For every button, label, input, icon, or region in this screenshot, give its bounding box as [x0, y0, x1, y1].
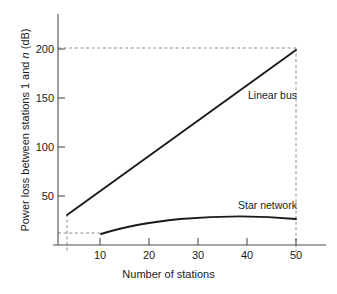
- series-linear-bus: [67, 50, 296, 215]
- y-axis-title: Power loss between stations 1 and n (dB): [19, 10, 31, 250]
- x-tick-label-30: 30: [184, 250, 212, 261]
- y-axis-title-after: (dB): [19, 29, 31, 53]
- series-label-star-network: Star network: [238, 199, 297, 211]
- series-label-linear-bus: Linear bus: [248, 89, 297, 101]
- x-tick-label-10: 10: [86, 250, 114, 261]
- y-tick-marks: [58, 49, 65, 196]
- x-tick-label-20: 20: [135, 250, 163, 261]
- guide-lines: [58, 48, 298, 252]
- y-axis-title-before: Power loss between stations 1 and: [19, 58, 31, 231]
- y-axis-title-italic-n: n: [19, 52, 31, 58]
- x-axis-title: Number of stations: [0, 268, 337, 280]
- x-tick-label-40: 40: [233, 250, 261, 261]
- series-star-network: [101, 216, 296, 234]
- x-tick-label-50: 50: [282, 250, 310, 261]
- power-loss-chart: 200 150 100 50 10 20 30 40 50 Linear bus…: [0, 0, 337, 294]
- x-tick-marks: [100, 238, 296, 245]
